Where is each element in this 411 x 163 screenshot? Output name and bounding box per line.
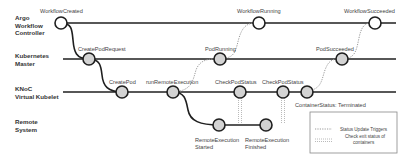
node-remote-execution-finished: RemoteExecution Finished [245, 119, 289, 150]
check-status-link-1 [239, 98, 242, 124]
node-label: CreatePodRequest [78, 46, 126, 52]
node-create-pod: CreatePod [109, 79, 136, 98]
node-label: CheckPodStatus [262, 79, 304, 85]
filled-circle-icon [214, 53, 226, 65]
lane-label-line: Kubernetes [15, 52, 50, 59]
lane-label-knoc: KNoC Virtual Kubelet [15, 85, 59, 100]
node-pod-succeeded: PodSucceeded [316, 46, 354, 65]
filled-circle-icon [336, 53, 348, 65]
node-label: ContainerStatus: Terminated [295, 102, 366, 108]
lane-label-line: Argo [15, 14, 30, 21]
trigger-run-remote-to-pod-running [180, 59, 214, 91]
lane-label-line: Workflow [15, 22, 43, 29]
node-check-pod-status-1: CheckPodStatus [215, 79, 257, 98]
lane-label-line: Controller [15, 29, 45, 36]
filled-circle-icon [234, 86, 246, 98]
filled-circle-icon [116, 86, 128, 98]
workflow-swimlane-diagram: Argo Workflow Controller Kubernetes Mast… [0, 0, 411, 163]
node-workflow-succeeded: WorkflowSucceeded [344, 8, 395, 29]
filled-circle-icon [167, 86, 179, 98]
lane-label-argo: Argo Workflow Controller [15, 14, 45, 36]
legend-label: containers [353, 140, 375, 145]
node-check-pod-status-2: CheckPodStatus [262, 79, 304, 98]
lane-label-line: Virtual Kubelet [15, 93, 59, 100]
node-label: Started [195, 144, 213, 150]
filled-circle-icon [301, 86, 313, 98]
lane-label-line: KNoC [15, 85, 33, 92]
open-circle-icon [253, 17, 265, 29]
node-label: WorkflowCreated [40, 8, 83, 14]
legend: Status Update Triggers Check exit status… [310, 112, 397, 153]
filled-circle-icon [260, 119, 272, 131]
lane-label-remote: Remote System [15, 118, 38, 133]
open-circle-icon [369, 17, 381, 29]
legend-box [310, 112, 397, 153]
trigger-pod-running-to-workflow-running [226, 23, 253, 58]
node-container-status: ContainerStatus: Terminated [295, 86, 366, 108]
node-run-remote-execution: runRemoteExecution [146, 79, 198, 98]
node-label: CheckPodStatus [215, 79, 257, 85]
lane-label-line: Remote [15, 118, 38, 125]
node-label: runRemoteExecution [146, 79, 198, 85]
filled-circle-icon [213, 119, 225, 131]
node-label: Finished [245, 144, 266, 150]
filled-circle-icon [277, 86, 289, 98]
lane-label-line: System [15, 126, 38, 133]
node-create-pod-request: CreatePodRequest [78, 46, 126, 65]
node-label: WorkflowRunning [237, 8, 281, 14]
legend-label: Check exit status of [345, 134, 386, 139]
open-circle-icon [55, 17, 67, 29]
lane-label-line: Master [15, 60, 36, 67]
flow-workflow-created-to-create-pod-request [61, 23, 89, 59]
node-label: RemoteExecution [195, 137, 239, 143]
check-status-link-2 [282, 98, 285, 124]
node-label: PodSucceeded [316, 46, 354, 52]
node-label: PodRunning [205, 46, 236, 52]
flow-run-remote-execution-to-remote-started [173, 92, 219, 125]
trigger-container-status-to-pod-succeeded [312, 59, 336, 90]
filled-circle-icon [83, 53, 95, 65]
flow-create-pod-request-to-create-pod [89, 59, 122, 92]
node-label: WorkflowSucceeded [344, 8, 395, 14]
node-workflow-created: WorkflowCreated [40, 8, 83, 29]
node-label: RemoteExecution [245, 137, 289, 143]
legend-label: Status Update Triggers [340, 127, 388, 132]
node-workflow-running: WorkflowRunning [237, 8, 281, 29]
trigger-pod-succeeded-to-workflow-succeeded [348, 23, 369, 58]
node-label: CreatePod [109, 79, 136, 85]
lane-label-kubernetes: Kubernetes Master [15, 52, 50, 67]
